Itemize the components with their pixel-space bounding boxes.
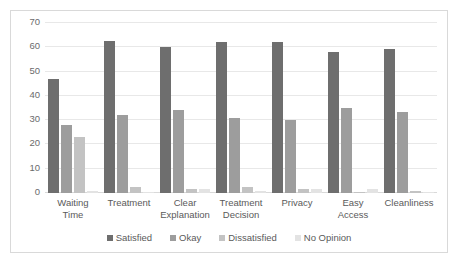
bar[interactable]	[104, 41, 115, 193]
y-axis-tick-label: 60	[29, 42, 40, 52]
bar[interactable]	[173, 110, 184, 193]
bar[interactable]	[74, 137, 85, 193]
bar[interactable]	[216, 42, 227, 193]
legend-swatch-icon	[107, 235, 113, 241]
bar[interactable]	[285, 120, 296, 193]
bar[interactable]	[397, 112, 408, 193]
y-axis-tick-label: 70	[29, 17, 40, 27]
legend-swatch-icon	[219, 235, 225, 241]
bars-layer	[45, 23, 437, 193]
bar[interactable]	[117, 115, 128, 193]
bar-group	[269, 23, 325, 193]
x-axis-category-label: Cleanliness	[381, 197, 437, 231]
legend-swatch-icon	[170, 235, 176, 241]
bar[interactable]	[384, 49, 395, 194]
x-axis-category-label: Treatment	[101, 197, 157, 231]
x-axis-category-label: Treatment Decision	[213, 197, 269, 231]
bar[interactable]	[328, 52, 339, 193]
bar[interactable]	[354, 192, 365, 193]
bar[interactable]	[199, 189, 210, 193]
bar[interactable]	[272, 42, 283, 193]
legend-item[interactable]: Dissatisfied	[219, 233, 277, 243]
plot-area: 010203040506070	[45, 23, 437, 193]
bar[interactable]	[143, 192, 154, 193]
bar-group	[45, 23, 101, 193]
bar[interactable]	[410, 191, 421, 193]
legend-item[interactable]: Satisfied	[107, 233, 152, 243]
bar-group	[325, 23, 381, 193]
bar[interactable]	[242, 187, 253, 193]
bar[interactable]	[423, 192, 434, 193]
bar-group	[157, 23, 213, 193]
x-axis-category-label: Privacy	[269, 197, 325, 231]
y-axis-tick-label: 10	[29, 163, 40, 173]
bar[interactable]	[186, 189, 197, 193]
legend-item[interactable]: No Opinion	[295, 233, 352, 243]
legend-swatch-icon	[295, 235, 301, 241]
legend-label: Satisfied	[116, 233, 152, 243]
bar[interactable]	[160, 47, 171, 193]
legend-label: Dissatisfied	[228, 233, 277, 243]
bar[interactable]	[341, 108, 352, 193]
bar[interactable]	[130, 187, 141, 193]
chart-container: 010203040506070 Waiting TimeTreatmentCle…	[10, 10, 448, 253]
y-axis-tick-label: 30	[29, 114, 40, 124]
chart-legend: SatisfiedOkayDissatisfiedNo Opinion	[11, 233, 447, 243]
bar[interactable]	[229, 118, 240, 193]
bar-group	[213, 23, 269, 193]
bar[interactable]	[298, 189, 309, 193]
bar[interactable]	[61, 125, 72, 193]
legend-label: Okay	[179, 233, 201, 243]
y-axis-tick-label: 20	[29, 139, 40, 149]
bar[interactable]	[311, 189, 322, 193]
x-axis-category-label: Waiting Time	[45, 197, 101, 231]
y-axis-tick-label: 0	[35, 187, 40, 197]
x-axis-category-label: Clear Explanation	[157, 197, 213, 231]
y-axis-tick-label: 40	[29, 90, 40, 100]
bar[interactable]	[367, 189, 378, 193]
bar-group	[101, 23, 157, 193]
bar[interactable]	[48, 79, 59, 193]
bar[interactable]	[87, 191, 98, 193]
x-axis-category-labels: Waiting TimeTreatmentClear ExplanationTr…	[45, 197, 437, 231]
bar[interactable]	[255, 191, 266, 193]
legend-item[interactable]: Okay	[170, 233, 201, 243]
x-axis-category-label: Easy Access	[325, 197, 381, 231]
legend-label: No Opinion	[304, 233, 352, 243]
y-axis-tick-label: 50	[29, 66, 40, 76]
bar-group	[381, 23, 437, 193]
